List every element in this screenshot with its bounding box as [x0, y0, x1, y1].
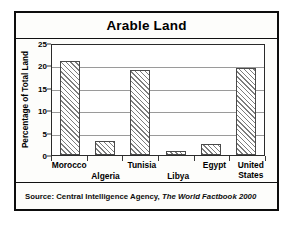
y-axis-title-text: Percentage of Total Land	[22, 50, 31, 147]
y-tick-label: 15	[38, 84, 47, 93]
x-axis-label: Libya	[167, 171, 189, 181]
bar	[236, 68, 256, 155]
figure-frame: Arable Land Percentage of Total Land 051…	[14, 11, 279, 211]
source-band: Source: Central Intelligence Agency, The…	[16, 182, 277, 209]
y-tick-label: 25	[38, 40, 47, 49]
source-caption: Source: Central Intelligence Agency, The…	[16, 192, 256, 201]
x-axis-label: Morocco	[52, 160, 87, 170]
plot-area	[51, 44, 265, 156]
x-axis-label: Algeria	[91, 171, 119, 181]
bars-layer	[52, 45, 264, 155]
bar	[201, 144, 221, 155]
y-tick-label: 10	[38, 107, 47, 116]
y-axis-ticks: 0510152025	[32, 44, 48, 156]
bar	[166, 151, 186, 155]
bar	[60, 61, 80, 155]
bar	[95, 141, 115, 155]
x-axis-label: UnitedStates	[238, 160, 264, 180]
bar	[130, 70, 150, 155]
title-band: Arable Land	[16, 13, 277, 39]
page-title: Arable Land	[106, 18, 186, 33]
plot-region: Percentage of Total Land 0510152025 Moro…	[16, 38, 277, 183]
y-tick-label: 20	[38, 62, 47, 71]
source-publication: The World Factbook 2000	[162, 192, 256, 201]
x-axis-label: Egypt	[203, 160, 226, 170]
x-axis-label: Tunisia	[127, 160, 156, 170]
